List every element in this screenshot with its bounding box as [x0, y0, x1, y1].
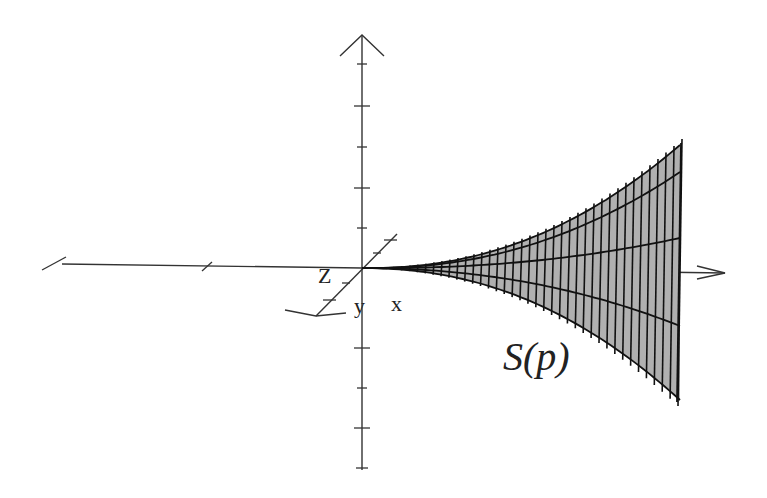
depth-axis-arrowhead	[285, 310, 346, 316]
depth-axis	[285, 234, 397, 316]
z-axis-label: Z	[318, 263, 331, 288]
x-axis-label: x	[391, 291, 402, 316]
y-axis-label: y	[354, 293, 365, 318]
surface-label: S(p)	[503, 334, 570, 379]
diagram-canvas: Z y x S(p)	[0, 0, 767, 498]
